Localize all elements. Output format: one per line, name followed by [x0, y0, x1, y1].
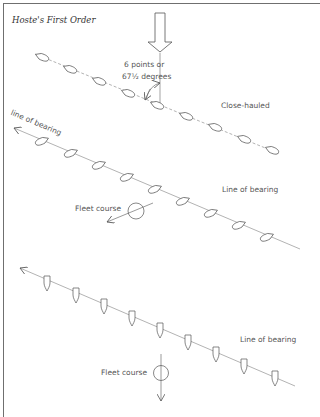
line-of-bearing-label-1: Line of bearing	[222, 185, 278, 194]
close-hauled-label: Close-hauled	[221, 101, 270, 110]
fleet-course-symbol-2	[154, 354, 169, 401]
formation-line-of-bearing-2	[20, 268, 295, 386]
fleet-course-label-2: Fleet course	[101, 368, 147, 377]
hoste-first-order-diagram: Hoste's First Order	[0, 0, 320, 417]
angle-arc	[146, 83, 160, 99]
wind-arrow-icon	[148, 13, 172, 52]
angle-label-line2: 67½ degrees	[122, 72, 171, 81]
angle-label-line1: 6 points or	[124, 60, 164, 69]
line-of-bearing-label-2: Line of bearing	[240, 335, 296, 344]
fleet-course-label-1: Fleet course	[75, 204, 121, 213]
angle-arc-arrow	[145, 89, 150, 100]
